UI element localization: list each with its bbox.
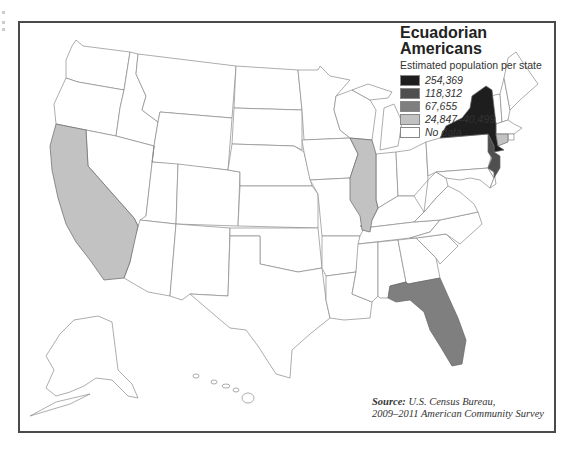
state-hawaii (193, 374, 254, 403)
legend-title-line1: Ecuadorian (400, 25, 550, 41)
legend-item: No data (400, 126, 550, 138)
state-nebraska (228, 144, 312, 186)
state-south-dakota (232, 108, 302, 150)
state-alaska (30, 316, 138, 416)
state-new-mexico (170, 224, 230, 300)
source-line2: 2009–2011 American Community Survey (372, 408, 544, 420)
source-label: Source: (372, 396, 406, 407)
source-note: Source: U.S. Census Bureau, 2009–2011 Am… (372, 396, 544, 420)
state-kansas (238, 186, 318, 228)
legend-swatch (400, 101, 420, 112)
legend-label: 24,847–40,499 (425, 113, 495, 125)
legend-swatch (400, 88, 420, 99)
legend-swatch (400, 127, 420, 138)
source-line1: U.S. Census Bureau, (408, 396, 495, 407)
legend-item: 24,847–40,499 (400, 113, 550, 125)
state-ohio (396, 142, 428, 196)
state-iowa (302, 138, 358, 180)
state-florida (388, 278, 466, 366)
legend-item: 254,369 (400, 74, 550, 86)
legend-label: 254,369 (425, 74, 463, 86)
legend-label: 67,655 (425, 100, 457, 112)
legend-title-line2: Americans (400, 41, 550, 57)
legend-item: 118,312 (400, 87, 550, 99)
state-wyoming (152, 112, 232, 170)
state-colorado (176, 164, 240, 226)
legend-label: No data (425, 126, 462, 138)
legend-item: 67,655 (400, 100, 550, 112)
state-arkansas (322, 236, 360, 276)
state-north-dakota (234, 66, 302, 110)
legend: Ecuadorian Americans Estimated populatio… (400, 25, 550, 139)
state-montana (136, 54, 236, 122)
legend-swatch (400, 114, 420, 125)
legend-label: 118,312 (425, 87, 462, 99)
legend-subtitle: Estimated population per state (400, 59, 550, 71)
legend-swatch (400, 75, 420, 86)
